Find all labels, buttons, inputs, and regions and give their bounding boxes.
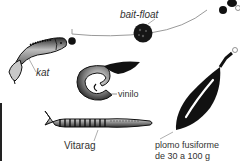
left-edge-bar: [0, 103, 2, 161]
rig-diagram: bait-float kat vinilo Vitarag plomo fusi…: [0, 0, 240, 161]
kat-label: kat: [36, 68, 49, 78]
swivel-bead-icon: [219, 0, 240, 14]
bait-float-icon: [134, 19, 156, 43]
vitarag-lure-icon: [45, 111, 152, 141]
sinker-label-line1: plomo fusiforme: [155, 141, 219, 150]
sinker-icon: [160, 48, 238, 140]
sinker-label-line2: de 30 a 100 g: [155, 152, 210, 161]
bait-float-label: bait-float: [120, 10, 158, 20]
vinilo-label: vinilo: [118, 90, 139, 99]
diagram-artwork: [0, 0, 240, 161]
vitarag-label: Vitarag: [64, 141, 96, 151]
